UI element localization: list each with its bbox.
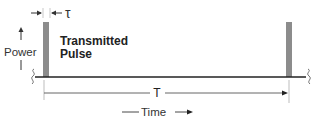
right-arrow-icon bbox=[282, 91, 288, 96]
period-dimension: T bbox=[44, 86, 288, 100]
second-pulse bbox=[286, 22, 292, 77]
period-label: T bbox=[153, 86, 161, 100]
up-arrow-icon bbox=[19, 27, 24, 32]
time-axis-label: Time bbox=[122, 106, 193, 118]
tau-label: τ bbox=[65, 5, 71, 21]
power-axis: Power bbox=[4, 27, 37, 70]
break-mark-right-icon bbox=[308, 69, 311, 84]
first-pulse bbox=[43, 22, 49, 77]
pulse-timing-diagram: τ Power Transmitted Pulse T Time bbox=[0, 0, 317, 123]
pulse-label-line2: Pulse bbox=[60, 47, 92, 61]
tau-dimension: τ bbox=[31, 5, 71, 21]
break-mark-left-icon bbox=[32, 69, 35, 84]
pulse-label-line1: Transmitted bbox=[60, 34, 128, 48]
power-label: Power bbox=[4, 46, 37, 58]
right-arrow-icon bbox=[187, 110, 193, 115]
time-label: Time bbox=[141, 106, 166, 118]
